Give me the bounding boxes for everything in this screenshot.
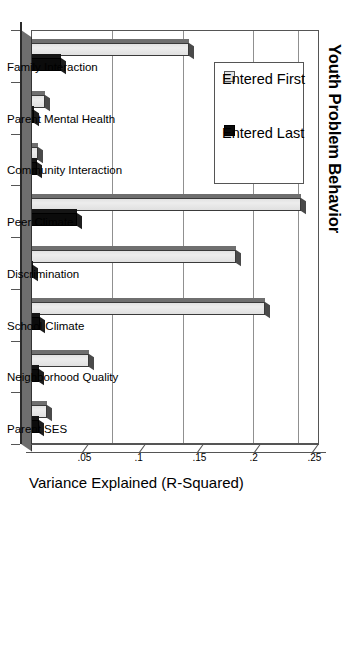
bar-group: [31, 185, 319, 237]
category-label: Discrimination: [7, 268, 79, 280]
value-axis: .05.1.15.2.25: [31, 444, 319, 446]
category-label: Peer Climate: [7, 216, 73, 228]
legend-item-entered-first: Entered First: [215, 63, 303, 115]
category-axis-tick: [11, 237, 20, 238]
category-label: School Climate: [7, 320, 84, 332]
legend-label: Entered Last: [222, 125, 304, 141]
bar-entered-first: [31, 250, 236, 263]
category-axis-tick: [11, 82, 20, 83]
bar-cap: [45, 95, 50, 111]
category-label: Neighborhood Quality: [7, 371, 118, 383]
value-axis-line-inner: [31, 444, 319, 445]
category-label: Family Interaction: [7, 61, 98, 73]
bar-group: [31, 341, 319, 393]
category-label: Parent Mental Health: [7, 113, 115, 125]
bar-cap: [77, 213, 82, 229]
bar-face: [31, 250, 236, 263]
category-label: Parent SES: [7, 423, 67, 435]
category-axis-tick: [11, 341, 20, 342]
category-label: Community Interaction: [7, 164, 122, 176]
category-axis-tick: [11, 289, 20, 290]
category-axis-tick: [11, 30, 20, 31]
bar-cap: [89, 354, 94, 370]
bar-entered-first: [31, 354, 89, 367]
bar-entered-first: [31, 302, 265, 315]
bar-cap: [265, 302, 270, 318]
bar-face: [31, 302, 265, 315]
bar-group: [31, 392, 319, 444]
value-axis-line-outer: [26, 452, 326, 453]
bar-cap: [236, 250, 241, 266]
value-axis-tick-label: .25: [308, 452, 322, 463]
category-axis-tick: [11, 134, 20, 135]
chart-legend: Entered First Entered Last: [214, 62, 304, 184]
value-axis-tick-label: .15: [192, 452, 206, 463]
bar-cap: [47, 405, 52, 421]
value-axis-tick-label: .1: [135, 452, 143, 463]
bar-cap: [301, 198, 306, 214]
value-axis-tick-label: .05: [77, 452, 91, 463]
bar-face: [31, 354, 89, 367]
bar-cap: [38, 147, 43, 163]
bar-group: [31, 289, 319, 341]
bar-group: [31, 237, 319, 289]
floor-slab: [21, 30, 32, 451]
category-axis-tick: [11, 185, 20, 186]
legend-label: Entered First: [222, 71, 305, 87]
value-axis-tick-label: .2: [250, 452, 258, 463]
category-axis-tick: [11, 444, 20, 445]
legend-item-entered-last: Entered Last: [215, 117, 303, 169]
value-axis-title: Variance Explained (R-Squared): [29, 474, 244, 491]
chart-title: Youth Problem Behavior: [325, 44, 344, 233]
chart-figure: Youth Problem Behavior .05.1.15.2.25 Var…: [0, 0, 351, 648]
bar-cap: [189, 43, 194, 59]
category-axis-tick: [11, 392, 20, 393]
